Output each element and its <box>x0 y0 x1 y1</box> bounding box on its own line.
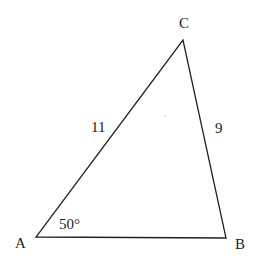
stray-dot <box>164 115 166 117</box>
side-label-ac: 11 <box>91 120 105 135</box>
triangle-figure <box>0 0 265 265</box>
triangle-abc <box>36 40 226 238</box>
vertex-label-a: A <box>15 236 26 251</box>
vertex-label-c: C <box>179 16 189 31</box>
side-label-bc: 9 <box>215 121 223 136</box>
angle-label-a: 50° <box>59 217 80 232</box>
triangle-diagram: C A B 11 9 50° <box>0 0 265 265</box>
vertex-label-b: B <box>235 237 245 252</box>
